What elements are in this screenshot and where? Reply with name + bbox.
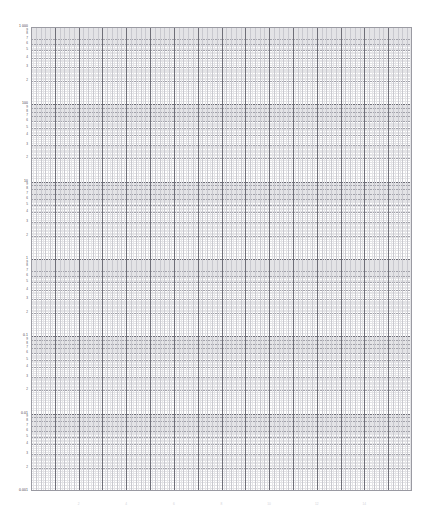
grid-line-vertical <box>160 27 161 491</box>
grid-line-vertical <box>100 27 101 491</box>
grid-line-vertical <box>317 27 318 491</box>
grid-line-vertical <box>71 27 72 491</box>
grid-line-vertical <box>407 27 408 491</box>
grid-line-vertical <box>136 27 137 491</box>
grid-line-vertical <box>255 27 256 491</box>
y-axis-tick-label: 6 <box>26 197 28 200</box>
grid-line-vertical <box>52 27 53 491</box>
y-axis-tick-label: 7 <box>26 192 28 195</box>
x-axis-tick-label: 12 <box>315 503 319 506</box>
grid-line-vertical <box>112 27 113 491</box>
grid-line-vertical <box>393 27 394 491</box>
y-axis-tick-label: 2 <box>26 157 28 160</box>
y-axis-tick-label: 7 <box>26 347 28 350</box>
y-axis-tick-label: 7 <box>26 37 28 40</box>
y-axis-tick-label: 2 <box>26 466 28 469</box>
grid-line-vertical <box>295 27 296 491</box>
y-axis-tick-label: 5 <box>26 281 28 284</box>
grid-line-vertical <box>410 27 411 491</box>
grid-line-vertical <box>336 27 337 491</box>
grid-line-vertical <box>364 27 365 491</box>
grid-line-vertical <box>81 27 82 491</box>
grid-line-vertical <box>305 27 306 491</box>
grid-line-vertical <box>400 27 401 491</box>
grid-line-vertical <box>260 27 261 491</box>
grid-line-vertical <box>45 27 46 491</box>
grid-line-vertical <box>300 27 301 491</box>
grid-line-vertical <box>250 27 251 491</box>
grid-line-vertical <box>141 27 142 491</box>
x-axis-tick-label: 2 <box>78 503 80 506</box>
grid-line-vertical <box>121 27 122 491</box>
grid-line-vertical <box>202 27 203 491</box>
grid-line-vertical <box>188 27 189 491</box>
grid-line-vertical <box>107 27 108 491</box>
grid-line-vertical <box>38 27 39 491</box>
y-axis-tick-label: 4 <box>26 288 28 291</box>
grid-line-vertical <box>281 27 282 491</box>
grid-line-vertical <box>224 27 225 491</box>
grid-line-vertical <box>133 27 134 491</box>
grid-line-vertical <box>179 27 180 491</box>
grid-line-vertical <box>248 27 249 491</box>
grid-line-vertical <box>62 27 63 491</box>
y-axis-tick-label: 2 <box>26 312 28 315</box>
grid-line-vertical <box>283 27 284 491</box>
x-axis-tick-label: 14 <box>363 503 367 506</box>
grid-line-vertical <box>369 27 370 491</box>
y-axis-tick-label: 7 <box>26 424 28 427</box>
grid-line-vertical <box>91 27 92 491</box>
grid-line-vertical <box>388 27 389 491</box>
grid-line-vertical <box>131 27 132 491</box>
grid-line-vertical <box>67 27 68 491</box>
grid-line-vertical <box>333 27 334 491</box>
grid-line-vertical <box>293 27 294 491</box>
grid-line-vertical <box>98 27 99 491</box>
y-axis-tick-label: 4 <box>26 134 28 137</box>
grid-line-vertical <box>231 27 232 491</box>
grid-line-vertical <box>198 27 199 491</box>
grid-line-vertical <box>314 27 315 491</box>
grid-line-vertical <box>174 27 175 491</box>
y-axis-tick-label: 3 <box>26 298 28 301</box>
grid-line-vertical <box>143 27 144 491</box>
grid-line-vertical <box>171 27 172 491</box>
grid-line-vertical <box>55 27 56 491</box>
grid-line-vertical <box>214 27 215 491</box>
grid-line-vertical <box>241 27 242 491</box>
grid-line-vertical <box>331 27 332 491</box>
grid-line-vertical <box>119 27 120 491</box>
grid-line-vertical <box>95 27 96 491</box>
grid-line-vertical <box>329 27 330 491</box>
x-axis-tick-label: 4 <box>125 503 127 506</box>
grid-line-vertical <box>338 27 339 491</box>
grid-line-vertical <box>341 27 342 491</box>
grid-line-vertical <box>41 27 42 491</box>
grid-line-vertical <box>195 27 196 491</box>
y-axis-tick-label: 3 <box>26 143 28 146</box>
grid-line-vertical <box>219 27 220 491</box>
grid-line-vertical <box>355 27 356 491</box>
y-axis-tick-label: 3 <box>26 221 28 224</box>
grid-line-vertical <box>60 27 61 491</box>
grid-line-vertical <box>269 27 270 491</box>
grid-line-vertical <box>279 27 280 491</box>
grid-line-vertical <box>362 27 363 491</box>
grid-line-vertical <box>298 27 299 491</box>
y-axis-tick-label: 6 <box>26 120 28 123</box>
grid-line-vertical <box>43 27 44 491</box>
x-axis-tick-label: 8 <box>221 503 223 506</box>
grid-line-vertical <box>117 27 118 491</box>
grid-line-vertical <box>383 27 384 491</box>
grid-line-vertical <box>138 27 139 491</box>
grid-line-vertical <box>186 27 187 491</box>
grid-line-vertical <box>286 27 287 491</box>
grid-line-vertical <box>312 27 313 491</box>
grid-line-vertical <box>212 27 213 491</box>
grid-line-vertical <box>262 27 263 491</box>
x-axis-labels: 2468101214 <box>0 503 439 517</box>
grid-line-vertical <box>57 27 58 491</box>
y-axis-tick-label: 7 <box>26 269 28 272</box>
y-axis-tick-label: 2 <box>26 80 28 83</box>
grid-line-vertical <box>164 27 165 491</box>
